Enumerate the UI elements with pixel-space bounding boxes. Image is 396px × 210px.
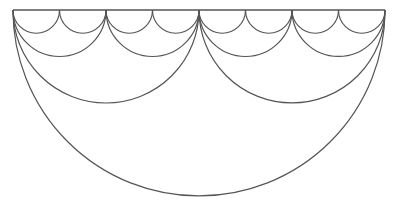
level-4-arc <box>246 10 293 33</box>
level-4-arc <box>339 10 386 33</box>
level-3-arc <box>106 10 199 57</box>
nested-semicircles-diagram <box>0 0 396 210</box>
level-4-arc <box>292 10 339 33</box>
level-2-arc <box>13 10 199 103</box>
level-4-arc <box>153 10 200 33</box>
semicircle-arcs <box>13 10 385 196</box>
level-2-arc <box>199 10 385 103</box>
level-3-arc <box>13 10 106 57</box>
level-4-arc <box>60 10 107 33</box>
level-3-arc <box>292 10 385 56</box>
level-1-arc <box>13 10 385 196</box>
level-4-arc <box>199 10 246 33</box>
level-4-arc <box>106 10 153 33</box>
level-4-arc <box>13 10 60 33</box>
level-3-arc <box>199 10 292 57</box>
